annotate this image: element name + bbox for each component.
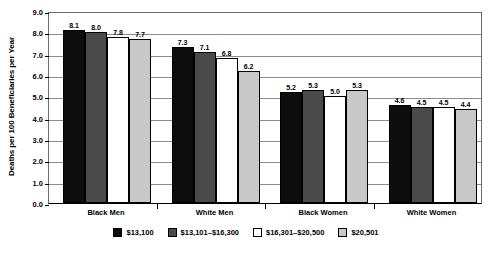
x-axis-category-label: Black Women bbox=[298, 208, 347, 217]
legend-item: $16,301–$20,500 bbox=[253, 228, 324, 237]
legend-swatch bbox=[168, 228, 177, 237]
bar bbox=[346, 90, 368, 203]
y-axis-tick-label: 1.0 bbox=[33, 178, 43, 187]
y-axis-title-text: Deaths per 100 Beneficiaries per Year bbox=[7, 37, 16, 176]
bar bbox=[389, 105, 411, 203]
bar bbox=[280, 92, 302, 203]
bar bbox=[63, 30, 85, 203]
x-axis-category-label: White Men bbox=[196, 208, 234, 217]
legend-swatch bbox=[338, 228, 347, 237]
y-axis-tick-label: 9.0 bbox=[33, 8, 43, 17]
bars-layer: 8.18.07.87.77.37.16.86.25.25.35.05.34.64… bbox=[49, 13, 481, 203]
legend-label: $16,301–$20,500 bbox=[266, 228, 324, 237]
legend-swatch bbox=[113, 228, 122, 237]
legend-item: $13,100 bbox=[113, 228, 153, 237]
legend-label: $20,501 bbox=[351, 228, 378, 237]
bar bbox=[411, 107, 433, 203]
bar-value-label: 5.0 bbox=[322, 88, 348, 95]
chart-legend: $13,100$13,101–$16,300$16,301–$20,500$20… bbox=[0, 228, 492, 237]
y-axis-tick-label: 0.0 bbox=[33, 200, 43, 209]
y-axis-tick-label: 6.0 bbox=[33, 72, 43, 81]
plot-area: 8.18.07.87.77.37.16.86.25.25.35.05.34.64… bbox=[48, 12, 482, 204]
y-axis-tick-label: 8.0 bbox=[33, 29, 43, 38]
y-axis-title: Deaths per 100 Beneficiaries per Year bbox=[0, 0, 22, 212]
bar bbox=[216, 58, 238, 203]
bar bbox=[324, 96, 346, 203]
bar bbox=[238, 71, 260, 203]
legend-item: $20,501 bbox=[338, 228, 378, 237]
x-axis-category-label: Black Men bbox=[87, 208, 124, 217]
y-axis-tick-label: 2.0 bbox=[33, 157, 43, 166]
bar bbox=[172, 47, 194, 203]
bar bbox=[194, 52, 216, 203]
y-axis-tick-label: 4.0 bbox=[33, 114, 43, 123]
bar-chart: Deaths per 100 Beneficiaries per Year 0.… bbox=[0, 0, 492, 253]
legend-label: $13,101–$16,300 bbox=[181, 228, 239, 237]
x-axis-category-label: White Women bbox=[407, 208, 456, 217]
bar-value-label: 6.8 bbox=[214, 50, 240, 57]
x-axis-tick-mark bbox=[157, 204, 158, 209]
bar bbox=[85, 32, 107, 203]
bar bbox=[129, 39, 151, 203]
y-axis-tick-label: 3.0 bbox=[33, 136, 43, 145]
y-axis-tick-labels: 0.01.02.03.04.05.06.07.08.09.0 bbox=[22, 12, 46, 204]
bar-value-label: 6.2 bbox=[236, 63, 262, 70]
x-axis-tick-mark bbox=[374, 204, 375, 209]
bar-value-label: 7.7 bbox=[127, 31, 153, 38]
bar bbox=[433, 107, 455, 203]
bar bbox=[107, 37, 129, 203]
bar bbox=[455, 109, 477, 203]
y-axis-tick-mark bbox=[45, 205, 49, 206]
x-axis-tick-mark bbox=[265, 204, 266, 209]
legend-item: $13,101–$16,300 bbox=[168, 228, 239, 237]
y-axis-tick-label: 5.0 bbox=[33, 93, 43, 102]
legend-swatch bbox=[253, 228, 262, 237]
y-axis-tick-label: 7.0 bbox=[33, 50, 43, 59]
bar-value-label: 4.4 bbox=[453, 101, 479, 108]
bar-value-label: 5.3 bbox=[344, 82, 370, 89]
bar bbox=[302, 90, 324, 203]
legend-label: $13,100 bbox=[126, 228, 153, 237]
